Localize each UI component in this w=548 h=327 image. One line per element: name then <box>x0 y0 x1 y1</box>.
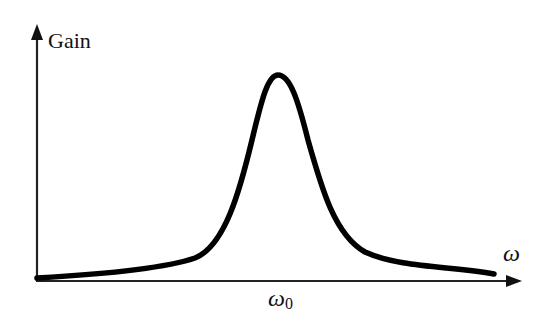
resonant-frequency-label: ω0 <box>268 285 293 313</box>
x-axis-label: ω <box>503 240 520 267</box>
y-axis-arrowhead-icon <box>31 24 43 40</box>
x-axis-arrowhead-icon <box>506 275 522 287</box>
y-axis-label: Gain <box>48 28 91 54</box>
gain-curve <box>37 75 494 278</box>
resonant-frequency-subscript: 0 <box>285 295 293 312</box>
resonant-frequency-symbol: ω <box>268 285 285 311</box>
